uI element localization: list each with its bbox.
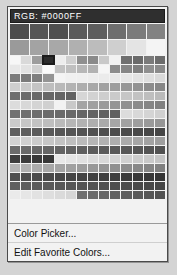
color-swatch[interactable]	[110, 173, 120, 181]
color-swatch[interactable]	[32, 92, 42, 100]
color-swatch[interactable]	[21, 182, 31, 190]
color-swatch[interactable]	[121, 191, 131, 199]
color-swatch[interactable]	[21, 101, 31, 109]
color-swatch[interactable]	[155, 74, 165, 82]
color-swatch[interactable]	[133, 119, 143, 127]
color-swatch[interactable]	[99, 191, 109, 199]
color-swatch[interactable]	[121, 110, 131, 118]
color-swatch[interactable]	[10, 182, 20, 190]
color-swatch[interactable]	[21, 56, 31, 64]
color-swatch[interactable]	[55, 119, 65, 127]
color-swatch[interactable]	[155, 191, 165, 199]
color-swatch[interactable]	[133, 56, 143, 64]
color-swatch[interactable]	[43, 128, 53, 136]
color-swatch[interactable]	[121, 173, 131, 181]
color-swatch[interactable]	[121, 128, 131, 136]
color-swatch[interactable]	[88, 182, 98, 190]
swatch-row-wide-2[interactable]	[10, 40, 165, 55]
color-swatch[interactable]	[32, 101, 42, 109]
color-swatch[interactable]	[30, 40, 49, 55]
color-swatch[interactable]	[110, 110, 120, 118]
color-swatch[interactable]	[21, 146, 31, 154]
color-swatch[interactable]	[99, 65, 109, 73]
color-swatch[interactable]	[133, 137, 143, 145]
color-swatch[interactable]	[21, 191, 31, 199]
color-swatch[interactable]	[66, 137, 76, 145]
color-swatch[interactable]	[77, 155, 87, 163]
color-swatch[interactable]	[66, 65, 76, 73]
color-swatch[interactable]	[121, 155, 131, 163]
color-swatch[interactable]	[77, 191, 87, 199]
color-swatch[interactable]	[10, 40, 29, 55]
color-swatch[interactable]	[21, 92, 31, 100]
color-swatch[interactable]	[77, 65, 87, 73]
color-swatch[interactable]	[155, 101, 165, 109]
color-swatch[interactable]	[66, 191, 76, 199]
color-swatch[interactable]	[110, 92, 120, 100]
color-swatch[interactable]	[88, 40, 107, 55]
color-swatch[interactable]	[55, 92, 65, 100]
color-swatch[interactable]	[21, 110, 31, 118]
color-swatch[interactable]	[77, 146, 87, 154]
color-swatch[interactable]	[66, 164, 76, 172]
color-swatch[interactable]	[10, 137, 20, 145]
color-swatch[interactable]	[133, 128, 143, 136]
color-swatch[interactable]	[55, 155, 65, 163]
color-swatch[interactable]	[66, 92, 76, 100]
color-swatch[interactable]	[43, 146, 53, 154]
color-swatch[interactable]	[66, 119, 76, 127]
color-swatch[interactable]	[155, 137, 165, 145]
color-swatch[interactable]	[88, 191, 98, 199]
color-swatch[interactable]	[43, 119, 53, 127]
color-swatch[interactable]	[110, 83, 120, 91]
color-swatch[interactable]	[32, 56, 42, 64]
color-swatch[interactable]	[10, 92, 20, 100]
color-swatch[interactable]	[144, 128, 154, 136]
color-swatch[interactable]	[32, 173, 42, 181]
color-swatch[interactable]	[77, 110, 87, 118]
color-swatch[interactable]	[110, 155, 120, 163]
color-swatch[interactable]	[55, 137, 65, 145]
color-swatch[interactable]	[127, 40, 146, 55]
color-swatch[interactable]	[10, 56, 20, 64]
color-swatch[interactable]	[55, 83, 65, 91]
color-swatch[interactable]	[144, 92, 154, 100]
color-swatch[interactable]	[88, 92, 98, 100]
color-swatch[interactable]	[49, 24, 68, 39]
color-swatch[interactable]	[121, 56, 131, 64]
color-swatch[interactable]	[155, 83, 165, 91]
color-swatch[interactable]	[88, 164, 98, 172]
color-swatch[interactable]	[21, 119, 31, 127]
color-swatch[interactable]	[155, 128, 165, 136]
color-swatch[interactable]	[55, 182, 65, 190]
color-swatch[interactable]	[77, 164, 87, 172]
color-swatch[interactable]	[121, 101, 131, 109]
color-swatch[interactable]	[121, 164, 131, 172]
color-swatch[interactable]	[88, 56, 98, 64]
color-swatch[interactable]	[144, 182, 154, 190]
color-swatch[interactable]	[155, 164, 165, 172]
color-swatch[interactable]	[99, 164, 109, 172]
color-swatch-grid[interactable]	[10, 56, 165, 199]
color-swatch[interactable]	[10, 164, 20, 172]
menu-item-color-picker[interactable]: Color Picker...	[8, 224, 167, 243]
color-swatch[interactable]	[121, 119, 131, 127]
color-swatch[interactable]	[144, 155, 154, 163]
color-swatch[interactable]	[21, 137, 31, 145]
color-swatch[interactable]	[88, 24, 107, 39]
color-swatch[interactable]	[10, 110, 20, 118]
color-swatch[interactable]	[110, 119, 120, 127]
color-swatch[interactable]	[88, 155, 98, 163]
color-swatch[interactable]	[155, 182, 165, 190]
color-swatch[interactable]	[155, 173, 165, 181]
color-swatch[interactable]	[77, 173, 87, 181]
color-swatch[interactable]	[133, 110, 143, 118]
color-swatch[interactable]	[121, 83, 131, 91]
color-swatch[interactable]	[55, 191, 65, 199]
color-swatch[interactable]	[144, 56, 154, 64]
color-swatch[interactable]	[88, 128, 98, 136]
color-swatch[interactable]	[32, 83, 42, 91]
color-swatch[interactable]	[66, 146, 76, 154]
color-swatch[interactable]	[77, 74, 87, 82]
color-swatch[interactable]	[127, 24, 146, 39]
